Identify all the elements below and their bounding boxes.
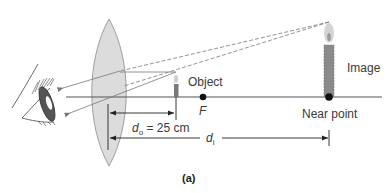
near-point: [325, 93, 333, 101]
magnifier-diagram: Object Image F Near point do = 25 cm di …: [0, 0, 387, 193]
image-label: Image: [347, 61, 381, 75]
object-candle: [174, 75, 179, 97]
focal-point: [200, 94, 207, 101]
figure-caption: (a): [182, 172, 196, 184]
focal-point-label: F: [199, 104, 207, 118]
dimension-arrows: [108, 97, 329, 150]
image-distance-label: di: [206, 131, 215, 147]
object-label: Object: [188, 75, 223, 89]
object-distance-label: do = 25 cm: [132, 121, 190, 137]
image-candle: [324, 23, 334, 97]
eye-icon: [12, 64, 58, 126]
converging-lens: [92, 19, 127, 166]
near-point-label: Near point: [302, 107, 358, 121]
